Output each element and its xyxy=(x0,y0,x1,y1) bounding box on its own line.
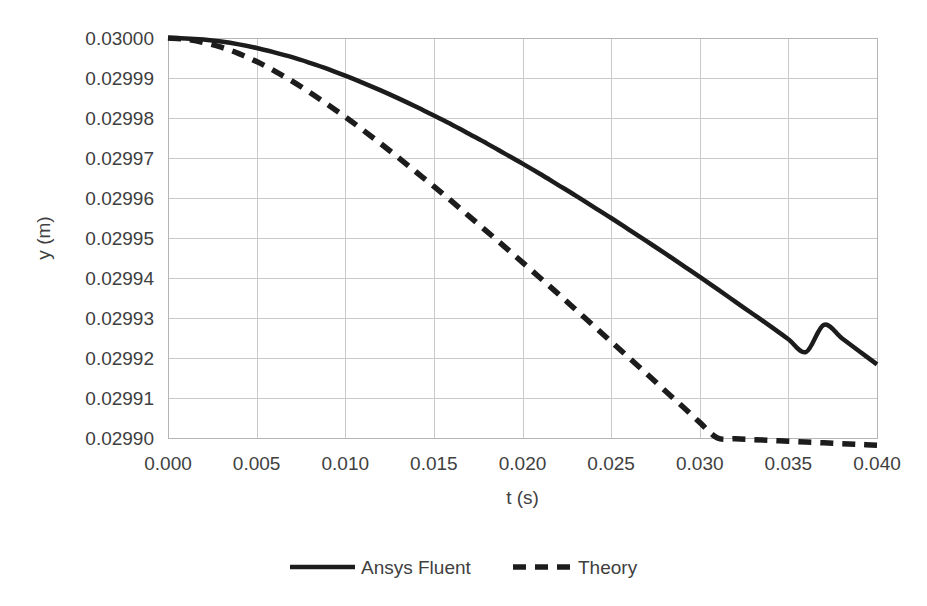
x-axis-tick-label: 0.015 xyxy=(410,453,458,474)
x-axis-tick-labels: 0.0000.0050.0100.0150.0200.0250.0300.035… xyxy=(144,453,901,474)
x-axis-tick-label: 0.035 xyxy=(765,453,813,474)
x-axis-tick-label: 0.040 xyxy=(853,453,901,474)
x-axis-tick-label: 0.020 xyxy=(499,453,547,474)
y-axis-tick-label: 0.02990 xyxy=(85,428,154,449)
legend-label-theory: Theory xyxy=(578,557,638,578)
legend-label-ansys-fluent: Ansys Fluent xyxy=(361,557,472,578)
chart-background xyxy=(0,0,927,606)
y-axis-tick-label: 0.02997 xyxy=(85,148,154,169)
y-axis-tick-label: 0.02991 xyxy=(85,388,154,409)
x-axis-tick-label: 0.010 xyxy=(321,453,369,474)
y-axis-title: y (m) xyxy=(33,216,54,259)
x-axis-tick-label: 0.025 xyxy=(587,453,635,474)
y-axis-tick-label: 0.02993 xyxy=(85,308,154,329)
y-axis-tick-label: 0.02998 xyxy=(85,108,154,129)
y-axis-tick-label: 0.02996 xyxy=(85,188,154,209)
y-axis-tick-label: 0.02992 xyxy=(85,348,154,369)
x-axis-tick-label: 0.005 xyxy=(233,453,281,474)
x-axis-title: t (s) xyxy=(506,487,539,508)
x-axis-tick-label: 0.000 xyxy=(144,453,192,474)
y-axis-tick-label: 0.02999 xyxy=(85,68,154,89)
line-chart: 0.029900.029910.029920.029930.029940.029… xyxy=(0,0,927,606)
y-axis-tick-label: 0.02995 xyxy=(85,228,154,249)
x-axis-tick-label: 0.030 xyxy=(676,453,724,474)
y-axis-tick-label: 0.03000 xyxy=(85,28,154,49)
chart-container: 0.029900.029910.029920.029930.029940.029… xyxy=(0,0,927,606)
y-axis-tick-label: 0.02994 xyxy=(85,268,154,289)
